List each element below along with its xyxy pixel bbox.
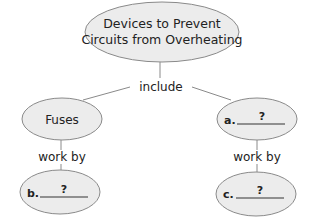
concept-map: Devices to Prevent Circuits from Overhea… (0, 0, 314, 221)
root-line1: Devices to Prevent (103, 16, 221, 31)
link-workby-right: work by (233, 150, 281, 164)
b-question: ? (61, 183, 67, 196)
b-label: b. (27, 187, 39, 200)
a-label: a. (224, 114, 236, 127)
link-include: include (139, 80, 182, 94)
c-question: ? (257, 184, 263, 197)
edge-include-a (192, 87, 231, 100)
c-label: c. (223, 188, 234, 201)
edge-include-fuses (83, 87, 130, 100)
link-workby-left: work by (38, 150, 86, 164)
root-line2: Circuits from Overheating (81, 32, 242, 47)
a-question: ? (259, 110, 265, 123)
fuses-label: Fuses (45, 113, 79, 127)
